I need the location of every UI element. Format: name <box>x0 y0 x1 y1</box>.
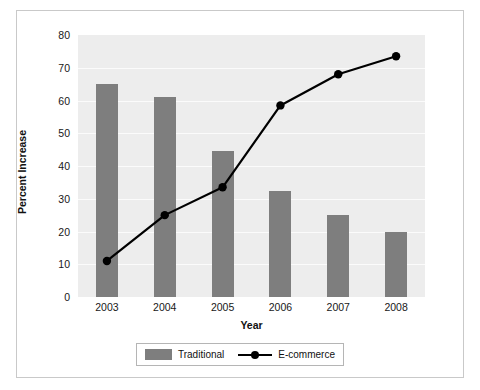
marker-2007 <box>334 70 342 78</box>
chart-figure: 80 70 60 50 40 30 20 10 0 20032004200520… <box>0 0 480 390</box>
x-tick-2008: 2008 <box>366 301 426 313</box>
legend-item-traditional[interactable]: Traditional <box>145 349 224 360</box>
line-markers <box>103 52 401 265</box>
line-series-ecommerce <box>78 35 425 297</box>
marker-2008 <box>392 52 400 60</box>
x-axis-title: Year <box>78 319 425 331</box>
plot-area <box>78 35 425 297</box>
chart-legend: Traditional E-commerce <box>136 343 344 366</box>
y-axis-title: Percent Increase <box>16 107 28 237</box>
marker-2005 <box>218 183 226 191</box>
legend-label-ecommerce: E-commerce <box>278 349 335 360</box>
marker-2003 <box>103 257 111 265</box>
x-tick-2007: 2007 <box>308 301 368 313</box>
bar-swatch-icon <box>145 349 172 360</box>
marker-2004 <box>161 211 169 219</box>
marker-2006 <box>276 101 284 109</box>
x-tick-2003: 2003 <box>77 301 137 313</box>
line-path <box>107 56 396 261</box>
x-tick-2005: 2005 <box>193 301 253 313</box>
x-tick-2006: 2006 <box>250 301 310 313</box>
x-tick-2004: 2004 <box>135 301 195 313</box>
legend-label-traditional: Traditional <box>178 349 224 360</box>
legend-item-ecommerce[interactable]: E-commerce <box>238 349 335 360</box>
line-marker-icon <box>238 349 272 360</box>
